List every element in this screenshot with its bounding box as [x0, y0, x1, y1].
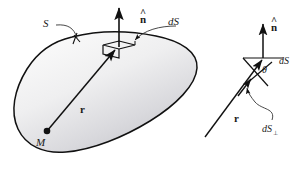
patch-label-dS-inset: dS [279, 56, 289, 66]
angle-label-theta: θ [262, 65, 267, 75]
radius-vector-label-inset: r [234, 113, 239, 124]
interior-point-M-dot [44, 128, 51, 135]
solid-angle-figure: S dS ^ n r M ^ n dS θ r dS⊥ [0, 0, 300, 170]
normal-hat-accent-inset: ^ [271, 16, 277, 26]
projected-patch-label-dS-perp: dS⊥ [262, 124, 278, 136]
radius-vector-label-main: r [80, 104, 85, 115]
closed-surface-blob [14, 32, 197, 152]
perpendicular-subscript-symbol: ⊥ [272, 129, 278, 136]
patch-label-dS-main: dS [168, 16, 179, 27]
unit-normal-label-inset: ^ n [271, 22, 277, 33]
interior-point-label-M: M [36, 137, 45, 148]
unit-normal-label-main: ^ n [140, 14, 146, 25]
surface-label-S: S [43, 18, 49, 29]
inset-diagram-graphics [205, 24, 283, 137]
projected-patch-letters: dS [262, 123, 272, 134]
normal-hat-accent-main: ^ [140, 8, 146, 18]
